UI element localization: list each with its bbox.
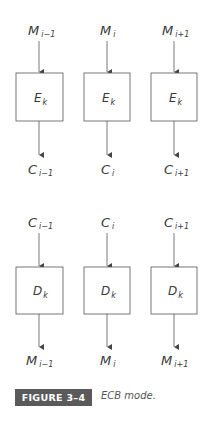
- figure-number-badge: FIGURE 3–4: [15, 389, 92, 406]
- dec-column-2: Ci Dk Mi: [84, 215, 130, 369]
- enc-output-label-3: Ci+1: [164, 162, 189, 178]
- dec-output-label-1: Mi−1: [26, 353, 53, 369]
- dec-column-3: Ci+1 Dk Mi+1: [151, 215, 197, 369]
- enc-input-label-3: Mi+1: [162, 23, 189, 39]
- enc-output-label-1: Ci−1: [28, 162, 53, 178]
- figure-caption: ECB mode.: [101, 390, 156, 401]
- dec-output-label-3: Mi+1: [161, 353, 188, 369]
- dec-output-label-2: Mi: [100, 353, 116, 369]
- dec-input-label-2: Ci: [101, 215, 115, 231]
- enc-output-label-2: Ci: [101, 162, 115, 178]
- enc-column-1: Mi−1 Ek Ci−1: [16, 23, 63, 178]
- dec-input-label-1: Ci−1: [28, 215, 53, 231]
- dec-input-label-3: Ci+1: [164, 215, 189, 231]
- enc-input-label-2: Mi: [100, 23, 116, 39]
- enc-input-label-1: Mi−1: [28, 23, 55, 39]
- ecb-diagram: Mi−1 Ek Ci−1 Mi Ek Ci Mi+1 Ek Ci+1 Ci−1 …: [0, 0, 213, 428]
- dec-column-1: Ci−1 Dk Mi−1: [16, 215, 63, 369]
- enc-column-3: Mi+1 Ek Ci+1: [151, 23, 197, 178]
- enc-column-2: Mi Ek Ci: [84, 23, 130, 178]
